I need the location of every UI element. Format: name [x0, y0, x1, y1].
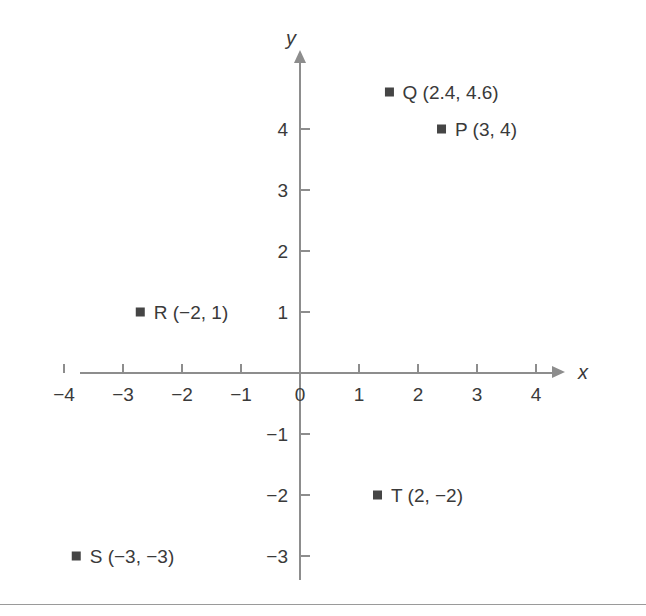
y-axis-arrowhead — [294, 50, 306, 63]
y-axis-line — [299, 56, 301, 580]
x-tick-label: 0 — [295, 385, 306, 404]
data-point-t: T (2, −2) — [373, 486, 463, 505]
y-tick — [301, 189, 310, 190]
x-tick-label: −3 — [112, 385, 134, 404]
x-tick-label: 2 — [413, 385, 424, 404]
x-tick — [476, 364, 477, 373]
point-marker-icon — [136, 308, 145, 317]
x-axis-label: x — [578, 362, 588, 382]
y-tick — [301, 128, 310, 129]
x-tick-label: 1 — [354, 385, 365, 404]
data-point-p: P (3, 4) — [437, 120, 517, 139]
coordinate-plane-chart: x y −4−3−2−101234 4321−1−2−3 Q (2.4, 4.6… — [0, 0, 646, 616]
y-axis-label: y — [286, 28, 296, 48]
x-tick-label: 4 — [531, 385, 542, 404]
x-tick — [240, 364, 241, 373]
point-label: T (2, −2) — [391, 486, 463, 505]
data-point-s: S (−3, −3) — [72, 547, 175, 566]
point-marker-icon — [373, 491, 382, 500]
y-tick — [301, 250, 310, 251]
x-tick — [122, 364, 123, 373]
y-tick — [301, 494, 310, 495]
x-tick — [417, 364, 418, 373]
data-point-r: R (−2, 1) — [136, 303, 228, 322]
x-axis-arrowhead — [552, 366, 565, 378]
x-tick-label: −1 — [230, 385, 252, 404]
point-marker-icon — [72, 552, 81, 561]
x-axis-line — [80, 372, 558, 374]
y-tick-label: −2 — [0, 486, 288, 505]
point-marker-icon — [437, 125, 446, 134]
data-point-q: Q (2.4, 4.6) — [385, 83, 499, 102]
point-label: Q (2.4, 4.6) — [403, 83, 499, 102]
y-tick-label: 3 — [0, 181, 288, 200]
point-label: S (−3, −3) — [90, 547, 175, 566]
y-tick-label: 2 — [0, 242, 288, 261]
page-bottom-rule — [0, 604, 646, 605]
x-tick-label: −2 — [171, 385, 193, 404]
y-tick — [301, 311, 310, 312]
x-tick — [181, 364, 182, 373]
point-label: P (3, 4) — [455, 120, 517, 139]
x-tick — [535, 364, 536, 373]
x-tick-label: 3 — [472, 385, 483, 404]
y-tick-label: −1 — [0, 425, 288, 444]
x-tick — [63, 364, 64, 373]
y-tick — [301, 433, 310, 434]
point-marker-icon — [385, 88, 394, 97]
point-label: R (−2, 1) — [154, 303, 228, 322]
y-tick — [301, 555, 310, 556]
x-tick — [358, 364, 359, 373]
y-tick-label: 4 — [0, 120, 288, 139]
x-tick-label: −4 — [53, 385, 75, 404]
